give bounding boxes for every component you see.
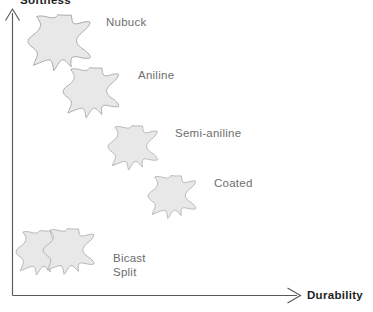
leather-hide-icon xyxy=(148,175,196,218)
data-markers xyxy=(16,14,196,275)
marker-bicast-split[interactable] xyxy=(16,228,94,275)
leather-hide-icon xyxy=(63,67,119,117)
marker-semi-aniline[interactable] xyxy=(108,125,157,170)
marker-nubuck[interactable] xyxy=(28,14,90,70)
leather-hide-icon xyxy=(108,125,157,170)
leather-hide-icon xyxy=(28,14,90,70)
x-axis-label: Durability xyxy=(307,289,363,301)
marker-coated[interactable] xyxy=(148,175,196,218)
y-axis-label: Softness xyxy=(20,0,71,6)
marker-aniline[interactable] xyxy=(63,67,119,117)
chart-canvas xyxy=(0,0,373,312)
leather-positioning-diagram: Nubuck Aniline Semi-aniline Coated Bicas… xyxy=(0,0,373,312)
x-axis xyxy=(13,288,301,303)
